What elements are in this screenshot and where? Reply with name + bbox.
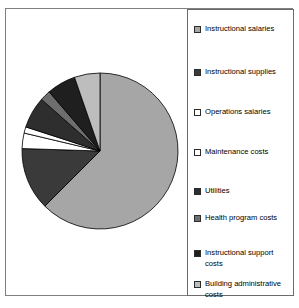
legend-item-label: Maintenance costs xyxy=(205,147,268,158)
legend-swatch-icon xyxy=(194,69,201,76)
legend-swatch-icon xyxy=(194,250,201,257)
legend-swatch-icon xyxy=(194,149,201,156)
legend-item[interactable]: Instructional support costs xyxy=(194,248,293,269)
chart-legend: Instructional salariesInstructional supp… xyxy=(187,9,294,296)
legend-swatch-icon xyxy=(194,26,201,33)
legend-item[interactable]: Instructional salaries xyxy=(194,24,293,35)
legend-item-label: Health program costs xyxy=(205,213,277,224)
legend-item-label: Operations salaries xyxy=(205,107,270,118)
legend-item[interactable]: Utilities xyxy=(194,186,293,197)
legend-swatch-icon xyxy=(194,281,201,288)
legend-item-label: Building administrative costs xyxy=(205,279,291,300)
legend-item[interactable]: Instructional supplies xyxy=(194,67,293,78)
legend-item[interactable]: Maintenance costs xyxy=(194,147,293,158)
chart-frame: Instructional salariesInstructional supp… xyxy=(5,8,293,296)
pie-chart xyxy=(20,71,180,231)
legend-item-label: Instructional supplies xyxy=(205,67,276,78)
legend-swatch-icon xyxy=(194,215,201,222)
legend-swatch-icon xyxy=(194,188,201,195)
legend-item[interactable]: Operations salaries xyxy=(194,107,293,118)
legend-swatch-icon xyxy=(194,109,201,116)
pie-plot-area xyxy=(6,9,184,297)
chart-screenshot: Instructional salariesInstructional supp… xyxy=(0,0,299,308)
legend-item-label: Instructional support costs xyxy=(205,248,291,269)
pie-slice-group xyxy=(22,73,178,229)
legend-item-label: Instructional salaries xyxy=(205,24,274,35)
legend-item[interactable]: Building administrative costs xyxy=(194,279,293,300)
legend-item-label: Utilities xyxy=(205,186,229,197)
legend-item[interactable]: Health program costs xyxy=(194,213,293,224)
